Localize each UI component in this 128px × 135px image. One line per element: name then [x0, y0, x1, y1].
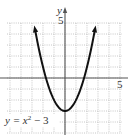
- curve-arrow-right-icon: [92, 25, 97, 32]
- equation-tail: − 3: [31, 114, 49, 126]
- chart: y 5 5 y = x2 − 3: [0, 0, 128, 135]
- y-axis-arrow-icon: [63, 7, 67, 13]
- equation-label: y = x2 − 3: [4, 114, 49, 126]
- y-tick-label: 5: [58, 14, 64, 26]
- x-tick-label: 5: [117, 78, 123, 90]
- curve-arrow-left-icon: [33, 25, 38, 32]
- equation-main: y = x: [4, 114, 28, 126]
